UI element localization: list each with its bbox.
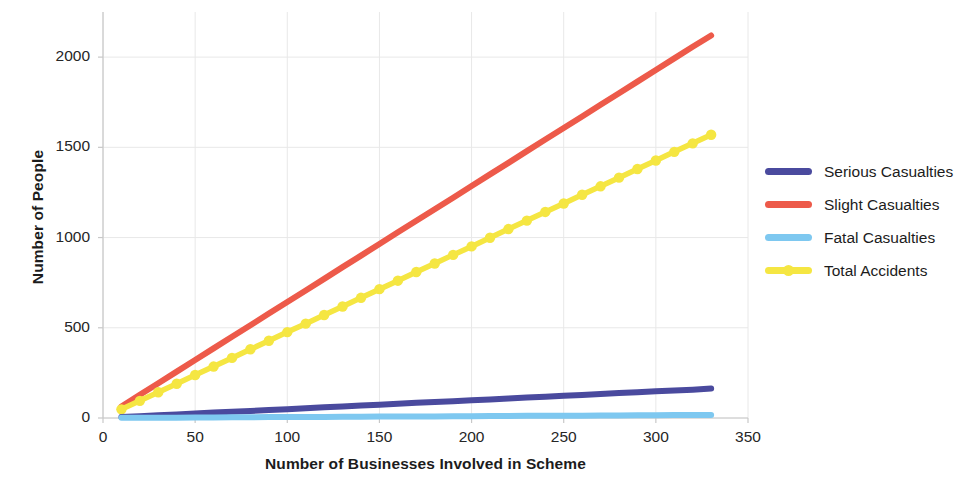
data-point-marker <box>116 404 126 414</box>
data-point-marker <box>393 275 403 285</box>
data-point-marker <box>411 267 421 277</box>
data-point-marker <box>337 301 347 311</box>
series-line <box>121 35 711 406</box>
legend-swatch-icon <box>765 234 812 241</box>
data-point-marker <box>688 138 698 148</box>
data-point-marker <box>301 318 311 328</box>
data-point-marker <box>466 241 476 251</box>
x-axis-title: Number of Businesses Involved in Scheme <box>103 455 748 473</box>
x-tick-label: 50 <box>165 428 225 446</box>
legend-item-slight-casualties[interactable]: Slight Casualties <box>765 188 970 221</box>
chart-legend: Serious CasualtiesSlight CasualtiesFatal… <box>765 155 970 287</box>
legend-swatch-icon <box>765 201 812 208</box>
legend-item-fatal-casualties[interactable]: Fatal Casualties <box>765 221 970 254</box>
series-total-accidents <box>116 130 716 415</box>
data-series-layer <box>116 35 716 417</box>
data-point-marker <box>706 130 716 140</box>
data-point-marker <box>430 258 440 268</box>
legend-item-total-accidents[interactable]: Total Accidents <box>765 254 970 287</box>
data-point-marker <box>190 370 200 380</box>
data-point-marker <box>614 172 624 182</box>
legend-item-label: Serious Casualties <box>824 163 953 181</box>
data-point-marker <box>135 396 145 406</box>
data-point-marker <box>559 198 569 208</box>
data-point-marker <box>282 327 292 337</box>
legend-swatch-icon <box>765 267 812 274</box>
data-point-marker <box>448 250 458 260</box>
line-chart: 0500100015002000 050100150200250300350 N… <box>0 0 973 485</box>
legend-item-label: Total Accidents <box>824 262 927 280</box>
data-point-marker <box>208 361 218 371</box>
legend-swatch-icon <box>765 168 812 175</box>
data-point-marker <box>503 224 513 234</box>
data-point-marker <box>153 387 163 397</box>
x-tick-label: 200 <box>442 428 502 446</box>
series-slight-casualties <box>121 35 711 406</box>
data-point-marker <box>172 379 182 389</box>
x-tick-label: 250 <box>534 428 594 446</box>
data-point-marker <box>485 233 495 243</box>
data-point-marker <box>356 293 366 303</box>
y-axis-title: Number of People <box>29 102 47 332</box>
x-tick-label: 150 <box>349 428 409 446</box>
data-point-marker <box>227 353 237 363</box>
x-tick-label: 300 <box>626 428 686 446</box>
x-tick-label: 0 <box>73 428 133 446</box>
data-point-marker <box>374 284 384 294</box>
data-point-marker <box>632 164 642 174</box>
data-point-marker <box>595 181 605 191</box>
data-point-marker <box>669 147 679 157</box>
x-tick-label: 350 <box>718 428 778 446</box>
data-point-marker <box>651 155 661 165</box>
data-point-marker <box>264 336 274 346</box>
y-tick-label: 0 <box>30 408 90 426</box>
series-line <box>121 415 711 418</box>
data-point-marker <box>540 207 550 217</box>
data-point-marker <box>522 215 532 225</box>
legend-item-serious-casualties[interactable]: Serious Casualties <box>765 155 970 188</box>
data-point-marker <box>245 344 255 354</box>
x-tick-label: 100 <box>257 428 317 446</box>
y-tick-label: 2000 <box>30 47 90 65</box>
legend-item-label: Slight Casualties <box>824 196 939 214</box>
series-fatal-casualties <box>121 415 711 418</box>
legend-item-label: Fatal Casualties <box>824 229 935 247</box>
data-point-marker <box>319 310 329 320</box>
data-point-marker <box>577 190 587 200</box>
